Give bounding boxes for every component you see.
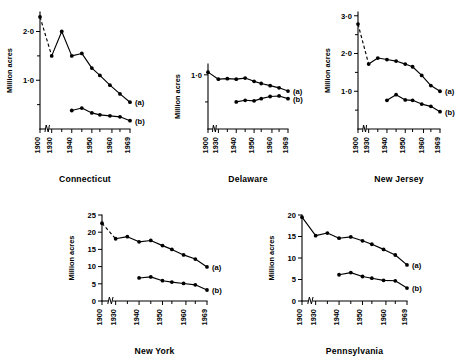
data-point xyxy=(80,106,84,110)
panel-new-york: 0510152025190019301940195019601969Millio… xyxy=(62,203,237,357)
panel-title: Delaware xyxy=(228,174,267,184)
y-tick-label: 2·0 xyxy=(23,27,34,36)
data-point xyxy=(128,100,132,104)
data-point xyxy=(429,84,433,88)
y-tick-label: 0 xyxy=(292,297,296,306)
axis-break-icon xyxy=(308,297,313,304)
series-label-a: (a) xyxy=(412,261,422,270)
x-tick-label: 1950 xyxy=(355,309,364,325)
data-point xyxy=(137,240,141,244)
panel-title: New York xyxy=(135,346,175,356)
data-point xyxy=(182,253,186,257)
x-tick-label: 1940 xyxy=(229,137,238,153)
data-point xyxy=(108,114,112,118)
axis-break-icon xyxy=(363,125,367,132)
x-tick-label: 1930 xyxy=(109,309,118,325)
data-point xyxy=(405,286,409,290)
y-tick-label: 25 xyxy=(88,211,97,220)
panel-title: Pennsylvania xyxy=(326,346,383,356)
data-point xyxy=(268,84,272,88)
chart-delaware: 1·0190019301940195019601969Million acres… xyxy=(168,52,318,185)
x-tick-label: 1930 xyxy=(45,137,54,153)
data-point xyxy=(361,275,365,279)
data-point xyxy=(394,59,398,63)
data-point xyxy=(205,265,209,269)
y-axis-title: Million acres xyxy=(67,236,76,281)
chart-new-jersey: 1·02·03·0190019301940195019601969Million… xyxy=(318,0,470,185)
data-point xyxy=(314,234,318,238)
x-tick-label: 1969 xyxy=(433,137,442,153)
data-point xyxy=(161,244,165,248)
data-point xyxy=(405,263,409,267)
data-point xyxy=(349,235,353,239)
data-point xyxy=(252,79,256,83)
x-tick-label: 1960 xyxy=(265,137,274,153)
data-point xyxy=(149,275,153,279)
x-tick-label: 1960 xyxy=(379,309,388,325)
y-tick-label: 3·0 xyxy=(341,12,352,21)
data-point xyxy=(161,279,165,283)
series-a-line xyxy=(208,72,288,91)
axis-break-icon xyxy=(212,125,216,132)
data-point xyxy=(268,95,272,99)
data-point xyxy=(403,62,407,66)
data-point xyxy=(286,97,290,101)
data-point xyxy=(277,86,281,90)
data-point xyxy=(108,83,112,87)
series-b-line xyxy=(387,95,440,112)
series-label-b: (b) xyxy=(412,284,422,293)
data-point xyxy=(182,282,186,286)
x-tick-label: 1900 xyxy=(201,137,210,153)
data-point xyxy=(114,237,118,241)
data-point xyxy=(394,93,398,97)
data-point xyxy=(356,22,360,26)
data-point xyxy=(128,119,132,123)
data-point xyxy=(376,56,380,60)
x-tick-label: 1969 xyxy=(123,137,132,153)
data-point xyxy=(217,77,221,81)
y-axis-title: Million acres xyxy=(173,74,182,119)
x-tick-label: 1960 xyxy=(417,137,426,153)
data-point xyxy=(420,102,424,106)
data-point xyxy=(137,276,141,280)
data-point xyxy=(125,235,129,239)
series-label-a: (a) xyxy=(135,98,145,107)
data-point xyxy=(438,89,442,93)
data-point xyxy=(337,273,341,277)
x-tick-label: 1930 xyxy=(211,137,220,153)
x-tick-label: 1900 xyxy=(351,137,360,153)
y-tick-label: 5 xyxy=(292,275,297,284)
data-point xyxy=(118,115,122,119)
y-tick-label: 0 xyxy=(92,297,96,306)
x-tick-label: 1940 xyxy=(332,309,341,325)
data-point xyxy=(393,253,397,257)
data-point xyxy=(259,82,263,86)
data-point xyxy=(38,15,42,19)
axis-break-icon xyxy=(45,125,50,132)
panel-pennsylvania: 05101520190019301940195019601969Million … xyxy=(262,203,437,357)
data-point xyxy=(98,73,102,77)
y-tick-label: 10 xyxy=(288,254,296,263)
data-point xyxy=(382,278,386,282)
x-tick-label: 1950 xyxy=(247,137,256,153)
y-axis-title: Million acres xyxy=(323,48,332,93)
x-tick-label: 1960 xyxy=(179,309,188,325)
y-tick-label: 15 xyxy=(88,245,97,254)
axis-break-icon xyxy=(108,297,113,304)
data-point xyxy=(385,58,389,62)
y-tick-label: 20 xyxy=(288,211,296,220)
data-point xyxy=(205,288,209,292)
series-label-b: (b) xyxy=(212,286,222,295)
data-point xyxy=(420,74,424,78)
data-point xyxy=(170,248,174,252)
data-point xyxy=(277,94,281,98)
x-tick-label: 1930 xyxy=(362,137,371,153)
data-point xyxy=(90,66,94,70)
panel-title: Connecticut xyxy=(59,174,111,184)
data-point xyxy=(325,231,329,235)
data-point xyxy=(193,283,197,287)
x-tick-label: 1950 xyxy=(155,309,164,325)
data-point xyxy=(370,242,374,246)
data-point xyxy=(411,98,415,102)
x-tick-label: 1950 xyxy=(85,137,94,153)
